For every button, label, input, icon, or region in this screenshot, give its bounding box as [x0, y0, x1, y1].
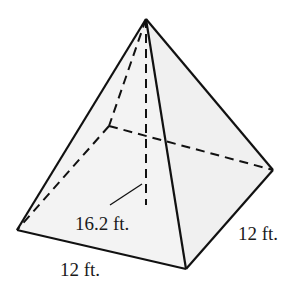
height-label: 16.2 ft.: [75, 213, 129, 234]
base-front-edge-label: 12 ft.: [60, 259, 100, 280]
base-right-edge-label: 12 ft.: [238, 223, 278, 244]
pyramid-diagram: 16.2 ft. 12 ft. 12 ft.: [0, 0, 293, 292]
pyramid-figure: 16.2 ft. 12 ft. 12 ft.: [0, 0, 293, 292]
